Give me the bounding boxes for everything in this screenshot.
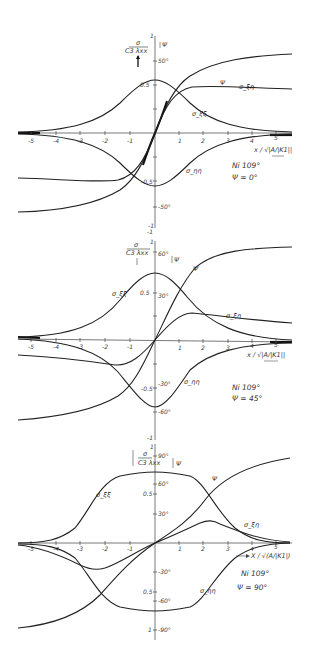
svg-text:Ψ: Ψ <box>193 265 199 273</box>
svg-text:-1: -1 <box>127 343 133 350</box>
svg-text:X / √(A/|K1|): X / √(A/|K1|) <box>250 552 290 560</box>
svg-text:-1: -1 <box>147 434 153 441</box>
svg-text:1: 1 <box>148 626 152 633</box>
svg-text:1: 1 <box>178 137 182 144</box>
svg-text:Ψ = 90°: Ψ = 90° <box>237 583 267 592</box>
svg-text:30°: 30° <box>158 292 169 299</box>
svg-text:σ_ξη: σ_ξη <box>239 83 254 91</box>
svg-text:30°: 30° <box>158 510 169 517</box>
svg-text:-4: -4 <box>53 343 59 350</box>
svg-text:2: 2 <box>201 344 205 351</box>
svg-text:Ψ: Ψ <box>220 79 226 87</box>
svg-text:0.5: 0.5 <box>143 490 153 497</box>
svg-text:-60°: -60° <box>158 597 171 604</box>
svg-text:-1: -1 <box>127 545 133 552</box>
svg-text:Ψ: Ψ <box>174 256 180 264</box>
svg-text:C3 λxx: C3 λxx <box>125 47 147 55</box>
curve-sigma-xixi <box>18 472 290 543</box>
svg-text:0.5: 0.5 <box>143 588 153 595</box>
svg-text:σ_ξη: σ_ξη <box>244 521 259 529</box>
svg-text:-90°: -90° <box>158 626 171 633</box>
svg-text:σ_ηη: σ_ηη <box>200 587 216 595</box>
svg-text:5: 5 <box>274 341 278 348</box>
svg-text:Ψ = 0°: Ψ = 0° <box>232 173 258 182</box>
svg-text:-2: -2 <box>102 137 108 144</box>
svg-text:σ_ηη: σ_ηη <box>186 167 202 175</box>
annotation: Ni 109° <box>232 161 260 170</box>
svg-text:C3 λxx: C3 λxx <box>138 459 160 467</box>
svg-text:1: 1 <box>150 443 154 450</box>
svg-text:1: 1 <box>150 32 154 39</box>
svg-text:Ψ: Ψ <box>176 460 182 468</box>
figure: -5-4-3-2-1 12345 1 0.5 50° -0.5 -50° -1 … <box>0 0 312 669</box>
svg-text:90°: 90° <box>158 452 169 459</box>
svg-text:-5: -5 <box>28 137 34 144</box>
svg-text:1: 1 <box>178 545 182 552</box>
x-label: x / √|A/|K1|| <box>253 146 292 154</box>
svg-text:-60°: -60° <box>158 408 171 415</box>
chart-psi-45: -5-4-3-2-1 12345 1 60° 0.5 30° -30° -0.5… <box>18 228 292 441</box>
svg-text:Ψ: Ψ <box>162 41 168 49</box>
svg-text:Ψ: Ψ <box>212 475 218 483</box>
svg-text:1: 1 <box>178 344 182 351</box>
svg-text:1: 1 <box>150 238 154 245</box>
svg-text:σ_ξη: σ_ξη <box>226 312 241 320</box>
svg-text:50°: 50° <box>158 57 169 64</box>
svg-text:4: 4 <box>250 137 254 144</box>
svg-text:Ni 109°: Ni 109° <box>241 569 269 578</box>
svg-text:60°: 60° <box>158 250 169 257</box>
svg-text:2: 2 <box>201 137 205 144</box>
svg-text:σ_ξξ: σ_ξξ <box>96 491 111 499</box>
y-label: σ <box>136 39 141 47</box>
svg-text:-1: -1 <box>127 137 133 144</box>
svg-text:2: 2 <box>201 545 205 552</box>
chart-psi-0: -5-4-3-2-1 12345 1 0.5 50° -0.5 -50° -1 … <box>18 32 292 229</box>
svg-text:σ_ηη: σ_ηη <box>184 378 200 386</box>
svg-text:σ_ξξ: σ_ξξ <box>192 110 207 118</box>
svg-text:Ψ = 45°: Ψ = 45° <box>232 394 262 403</box>
svg-text:-1: -1 <box>147 228 153 235</box>
svg-text:-50°: -50° <box>158 203 171 210</box>
svg-text:Ni 109°: Ni 109° <box>232 383 260 392</box>
svg-text:3: 3 <box>226 545 230 552</box>
svg-text:-3: -3 <box>77 545 83 552</box>
svg-text:σ: σ <box>143 450 148 458</box>
svg-text:-30°: -30° <box>158 568 171 575</box>
svg-text:C3 λxx: C3 λxx <box>126 249 148 257</box>
svg-text:-4: -4 <box>53 137 59 144</box>
svg-text:60°: 60° <box>158 480 169 487</box>
svg-text:-2: -2 <box>102 343 108 350</box>
svg-text:-5: -5 <box>28 343 34 350</box>
svg-text:σ_ξξ: σ_ξξ <box>112 290 127 298</box>
chart-psi-90: -5-4-3-2-1 12345 1 90° 60° 0.5 30° -30° … <box>18 443 292 640</box>
svg-text:-0.5: -0.5 <box>141 385 153 392</box>
svg-text:σ: σ <box>134 241 139 249</box>
svg-text:x / √|A/|K1||: x / √|A/|K1|| <box>246 351 285 359</box>
svg-text:0.5: 0.5 <box>140 289 150 296</box>
svg-text:-2: -2 <box>102 545 108 552</box>
svg-text:-30°: -30° <box>158 380 171 387</box>
